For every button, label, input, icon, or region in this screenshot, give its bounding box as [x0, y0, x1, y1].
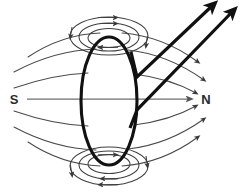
- north-pole-label: N: [201, 92, 210, 107]
- field-line-canvas: S N: [0, 0, 240, 196]
- magnetic-field-diagram: S N: [0, 0, 240, 196]
- south-pole-label: S: [10, 92, 19, 107]
